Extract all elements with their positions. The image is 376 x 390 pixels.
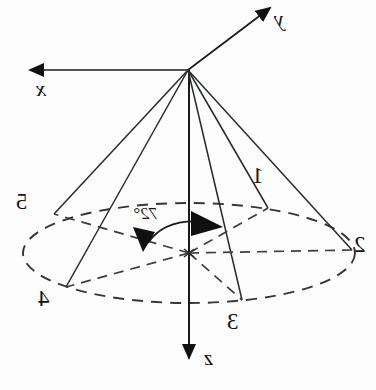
cone-diagram-svg — [0, 0, 376, 390]
y-axis-label: y — [274, 8, 284, 30]
point-label-2: 2 — [354, 233, 366, 256]
point-label-5: 5 — [16, 190, 28, 213]
point-label-4: 4 — [38, 287, 50, 310]
x-axis-label: x — [36, 78, 46, 100]
y-axis-line — [188, 8, 270, 70]
z-axis-label: z — [204, 347, 213, 369]
point-label-1: 1 — [252, 164, 264, 187]
radius-line-2 — [189, 250, 352, 253]
point-label-3: 3 — [227, 310, 239, 333]
radius-line-3 — [189, 253, 242, 300]
figure-canvas: x y z 1 2 3 4 5 72° — [0, 0, 376, 390]
radius-line-4 — [66, 253, 189, 287]
generator-line-4 — [66, 70, 188, 287]
generator-line-3 — [188, 70, 242, 300]
angle-label: 72° — [134, 205, 158, 222]
angle-arrowhead-right — [191, 211, 223, 236]
radius-line-5 — [54, 214, 189, 253]
generator-line-5 — [54, 70, 188, 214]
